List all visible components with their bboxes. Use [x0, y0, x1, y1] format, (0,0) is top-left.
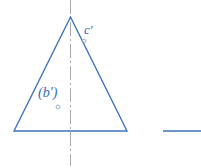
figure-canvas: c′ (b′): [0, 0, 201, 168]
marker-b-prime-icon: [56, 105, 60, 109]
diagram-svg: [0, 0, 201, 168]
label-c-prime: c′: [84, 23, 93, 36]
label-b-prime: (b′): [38, 86, 57, 100]
